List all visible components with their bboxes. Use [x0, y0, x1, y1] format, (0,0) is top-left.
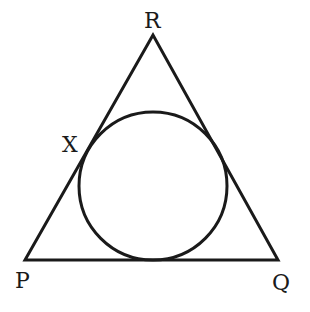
incircle — [79, 112, 227, 260]
label-vertex-P: P — [15, 268, 30, 293]
label-vertex-Q: Q — [272, 270, 290, 295]
label-point-X: X — [62, 132, 78, 157]
label-vertex-R: R — [144, 8, 162, 33]
triangle-incircle-diagram: R X P Q — [0, 0, 310, 312]
